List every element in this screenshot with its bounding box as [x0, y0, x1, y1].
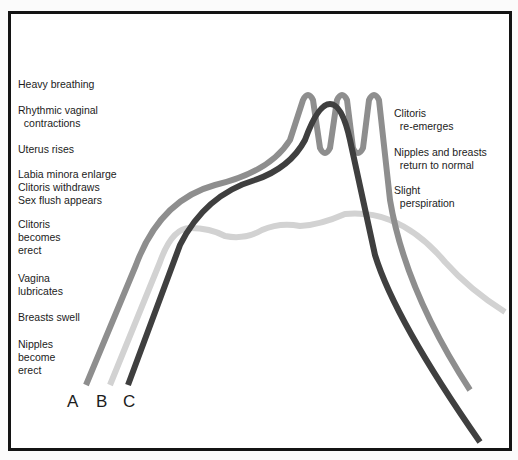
- left-label: Breasts swell: [18, 311, 80, 324]
- left-label: Heavy breathing: [18, 78, 94, 91]
- left-label: Vagina lubricates: [18, 272, 63, 298]
- left-label: Clitoris becomes erect: [18, 218, 61, 257]
- right-label: Nipples and breasts return to normal: [394, 146, 487, 172]
- curve-label-a: A: [67, 392, 78, 412]
- curve-b: [110, 214, 505, 385]
- right-label: Slight perspiration: [394, 184, 455, 210]
- left-label: Nipples become erect: [18, 338, 55, 377]
- curve-label-b: B: [96, 392, 107, 412]
- left-label: Uterus rises: [18, 143, 74, 156]
- right-label: Clitoris re-emerges: [394, 107, 454, 133]
- left-label: Rhythmic vaginal contractions: [18, 104, 98, 130]
- curve-label-c: C: [123, 392, 135, 412]
- left-label: Labia minora enlarge Clitoris withdraws …: [18, 168, 117, 207]
- response-curves: [0, 0, 518, 460]
